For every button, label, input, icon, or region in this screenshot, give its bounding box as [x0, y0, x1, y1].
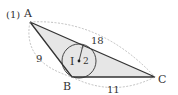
triangle-abc: [30, 22, 155, 77]
incenter-label: I: [70, 55, 74, 68]
side-bc-label: 11: [107, 84, 120, 95]
incenter-point: [78, 60, 81, 63]
inradius-label: 2: [83, 56, 89, 66]
triangle-incircle-diagram: (1) A B C I 2 18 9 11: [0, 0, 178, 95]
problem-number: (1): [6, 9, 20, 20]
vertex-c-label: C: [158, 73, 166, 86]
side-ab-label: 9: [36, 53, 42, 64]
vertex-b-label: B: [63, 80, 71, 93]
vertex-a-label: A: [23, 7, 33, 20]
side-ac-label: 18: [91, 35, 104, 46]
